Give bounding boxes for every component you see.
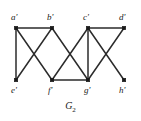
graph-vertex-label: e' xyxy=(11,86,17,95)
graph-edges-layer xyxy=(16,28,124,80)
graph-figure-g2: a'b'c'd'e'f'g'h' G2 xyxy=(0,0,141,121)
graph-vertex-label: a' xyxy=(11,13,17,22)
graph-vertex xyxy=(50,78,53,81)
graph-vertex-label: c' xyxy=(83,13,89,22)
graph-vertex xyxy=(122,26,125,29)
figure-caption-subscript: 2 xyxy=(72,106,76,114)
graph-vertex xyxy=(86,78,89,81)
graph-vertex-label: d' xyxy=(119,13,125,22)
graph-vertex xyxy=(14,26,17,29)
graph-vertex-label: f' xyxy=(48,86,52,95)
graph-vertex xyxy=(86,26,89,29)
graph-vertex xyxy=(14,78,17,81)
graph-vertex xyxy=(50,26,53,29)
graph-vertex-label: h' xyxy=(119,86,125,95)
figure-caption: G2 xyxy=(0,100,141,114)
graph-vertex-label: g' xyxy=(84,86,90,95)
graph-vertex-label: b' xyxy=(47,13,53,22)
graph-vertex xyxy=(122,78,125,81)
